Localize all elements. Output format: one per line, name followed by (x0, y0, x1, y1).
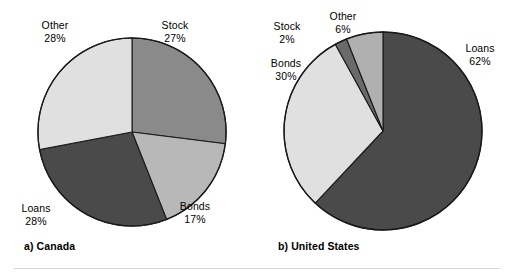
us-slice-group (284, 32, 482, 230)
label-us-other: Other 6% (320, 10, 366, 35)
pie-slice-other (38, 38, 132, 150)
label-us-loans-name: Loans (455, 42, 505, 55)
label-us-loans: Loans 62% (455, 42, 505, 67)
caption-united-states: b) United States (278, 240, 360, 252)
label-canada-loans-pct: 28% (6, 215, 66, 228)
label-canada-loans: Loans 28% (6, 202, 66, 227)
bottom-divider-rule (14, 268, 500, 269)
label-us-other-pct: 6% (320, 23, 366, 36)
label-us-stock: Stock 2% (263, 20, 311, 45)
label-canada-stock: Stock 27% (146, 19, 204, 44)
label-canada-stock-name: Stock (146, 19, 204, 32)
label-us-stock-name: Stock (263, 20, 311, 33)
label-canada-other: Other 28% (24, 19, 86, 44)
label-us-bonds-pct: 30% (259, 70, 313, 83)
label-canada-bonds-name: Bonds (164, 200, 226, 213)
label-canada-other-name: Other (24, 19, 86, 32)
label-canada-bonds: Bonds 17% (164, 200, 226, 225)
caption-canada: a) Canada (24, 240, 75, 252)
label-us-bonds: Bonds 30% (259, 57, 313, 82)
label-canada-other-pct: 28% (24, 32, 86, 45)
label-canada-bonds-pct: 17% (164, 213, 226, 226)
label-us-other-name: Other (320, 10, 366, 23)
label-canada-stock-pct: 27% (146, 32, 204, 45)
label-canada-loans-name: Loans (6, 202, 66, 215)
canada-slice-group (38, 38, 226, 226)
label-us-bonds-name: Bonds (259, 57, 313, 70)
panel-canada: Other 28% Stock 27% Bonds 17% Loans 28% … (0, 0, 255, 277)
pie-slice-stock (132, 38, 226, 144)
label-us-stock-pct: 2% (263, 33, 311, 46)
label-us-loans-pct: 62% (455, 55, 505, 68)
figure-two-pie-charts: Other 28% Stock 27% Bonds 17% Loans 28% … (0, 0, 509, 277)
